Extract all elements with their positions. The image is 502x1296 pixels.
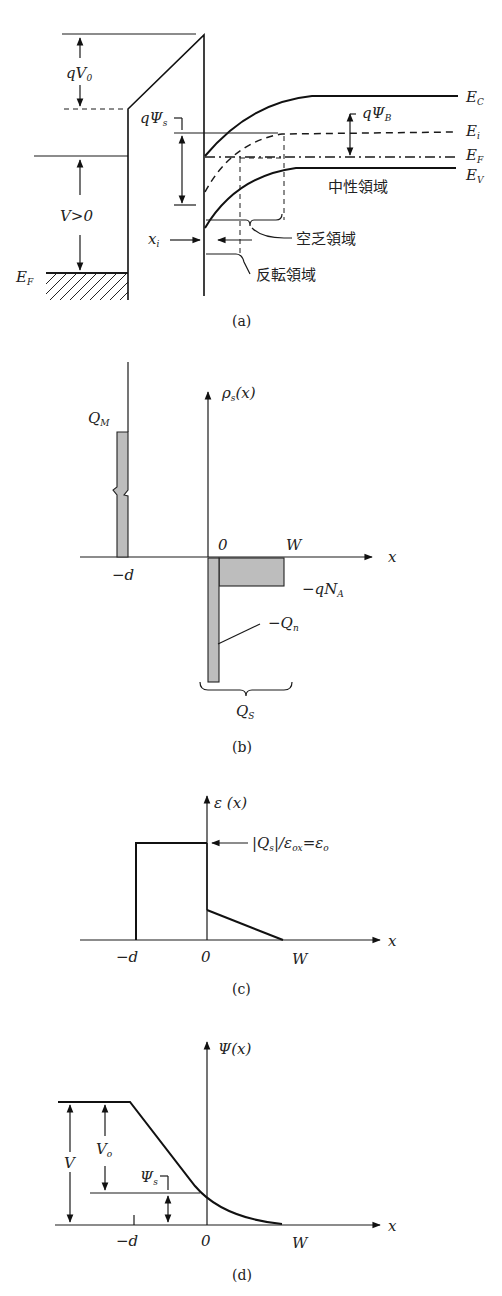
mos-band-diagram-figure: qV0 V>0 EF qΨs qΨB EC Ei EF EV 中性領域 [0,0,502,1296]
caption-a: (a) [232,313,251,329]
minus-qna-label: −qNA [302,580,344,599]
inversion-charge-bar [208,558,219,682]
w-label: W [292,1234,309,1252]
psi-s-label: Ψs [140,1168,158,1187]
depletion-charge-bar [219,558,284,586]
qm-label: QM [88,409,110,428]
conduction-band-ec [205,96,458,156]
depletion-leader [252,228,292,238]
ec-label: EC [465,88,484,107]
zero-label: 0 [201,948,211,966]
qv0-label: qV0 [66,64,92,83]
oxide-field [136,843,207,940]
xi-label: xi [148,230,159,249]
metal-hatch [46,274,128,300]
minus-d-label: −d [116,948,138,966]
ei-label: Ei [465,122,480,141]
panel-c-electric-field: ε (x) |Qs|/εox=εo −d 0 W x (c) [80,794,397,997]
v-gt-0-label: V>0 [60,207,93,225]
zero-label: 0 [218,536,228,554]
w-label: W [286,536,303,554]
semiconductor-field [207,910,283,940]
potential-curve [58,1102,282,1224]
ev-label: EV [465,166,485,185]
minus-d-label: −d [116,1232,138,1250]
inversion-leader [206,254,250,274]
qs-label: QS [236,702,254,721]
qm-charge-bar [113,432,128,557]
q-psi-s-label: qΨs [140,109,168,128]
qs-brace [200,682,292,696]
minus-qn-label: −Qn [268,614,299,633]
q-psi-b-label: qΨB [362,104,392,123]
rho-axis-label: ρs(x) [221,384,256,403]
panel-b-charge-distribution: ρs(x) QM −d 0 W x −qNA −Qn QS (b) [80,362,397,755]
panel-d-potential: Ψ(x) V Vo Ψs −d 0 W x (d) [55,1040,397,1283]
ef-label: EF [465,146,484,165]
valence-band-ev [205,168,456,228]
psi-axis-label: Ψ(x) [218,1040,251,1058]
caption-c: (c) [232,981,251,997]
field-axis-label: ε (x) [214,794,247,812]
depletion-region-label: 空乏領域 [296,230,356,248]
minus-d-label: −d [112,566,134,584]
oxide-barrier [128,35,204,300]
field-annot-label: |Qs|/εox=εo [252,834,329,853]
x-axis-label: x [388,932,397,950]
qn-leader [218,624,260,644]
ef-metal-label: EF [15,268,34,287]
depletion-brace [206,214,282,226]
caption-d: (d) [232,1267,252,1283]
x-axis-label: x [388,1217,397,1235]
neutral-region-label: 中性領域 [328,178,388,196]
w-label: W [292,950,309,968]
panel-a-energy-band: qV0 V>0 EF qΨs qΨB EC Ei EF EV 中性領域 [15,34,485,329]
zero-label: 0 [201,1232,211,1250]
caption-b: (b) [232,739,252,755]
x-axis-label: x [388,548,397,566]
inversion-region-label: 反転領域 [256,266,316,284]
